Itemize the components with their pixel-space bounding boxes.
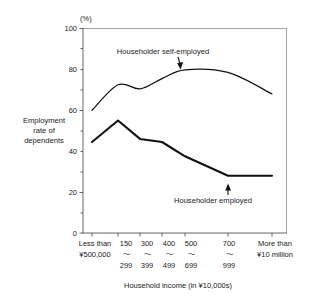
line-chart: 100 80 60 40 20 0 (%) Employment rate of… bbox=[0, 0, 312, 299]
x-tick-label-1-top: 150 bbox=[120, 239, 133, 248]
y-axis-title-line-1: Employment bbox=[23, 116, 66, 125]
x-tick-label-3-top: 400 bbox=[163, 239, 176, 248]
y-axis-title-line-3: dependents bbox=[24, 136, 64, 145]
y-tick-label-20: 20 bbox=[69, 188, 77, 197]
x-tick-label-5-mid: ～ bbox=[226, 250, 234, 259]
y-tick-label-100: 100 bbox=[64, 24, 77, 33]
x-tick-label-0-mid: ¥500,000 bbox=[79, 250, 110, 259]
y-tick-label-80: 80 bbox=[69, 65, 77, 74]
x-tick-label-2-top: 300 bbox=[141, 239, 154, 248]
annotation-label-self-employed: Householder self-employed bbox=[117, 47, 209, 56]
x-tick-label-4-bot: 699 bbox=[185, 261, 198, 270]
x-tick-label-5-top: 700 bbox=[223, 239, 236, 248]
x-tick-label-4-top: 500 bbox=[185, 239, 198, 248]
x-tick-label-6-top: More than bbox=[258, 239, 292, 248]
y-axis-title-line-2: rate of bbox=[33, 126, 55, 135]
x-tick-label-4-mid: ～ bbox=[188, 250, 196, 259]
x-tick-labels-top: Less than 150 300 400 500 700 More than bbox=[79, 239, 292, 248]
x-tick-label-0-top: Less than bbox=[79, 239, 112, 248]
x-tick-label-3-bot: 499 bbox=[163, 261, 176, 270]
y-tick-label-40: 40 bbox=[69, 147, 77, 156]
x-tick-label-3-mid: ～ bbox=[166, 250, 174, 259]
x-tick-label-6-mid: ¥10 million bbox=[257, 250, 293, 259]
annotation-label-employed: Householder employed bbox=[174, 196, 252, 205]
x-tick-label-5-bot: 999 bbox=[223, 261, 236, 270]
x-tick-label-2-mid: ～ bbox=[144, 250, 152, 259]
y-tick-label-60: 60 bbox=[69, 106, 77, 115]
x-tick-label-1-mid: ～ bbox=[123, 250, 131, 259]
x-axis-title: Household income (in ¥10,000s) bbox=[124, 281, 232, 290]
x-tick-label-2-bot: 399 bbox=[141, 261, 154, 270]
y-axis-unit-label: (%) bbox=[80, 14, 92, 23]
chart-container: 100 80 60 40 20 0 (%) Employment rate of… bbox=[0, 0, 312, 299]
y-tick-label-0: 0 bbox=[73, 229, 77, 238]
x-tick-label-1-bot: 299 bbox=[120, 261, 133, 270]
